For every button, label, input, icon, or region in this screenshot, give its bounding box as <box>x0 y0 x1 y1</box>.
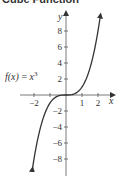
equals-sign: = <box>19 71 30 82</box>
function-label: f(x) = x3 <box>5 70 37 82</box>
svg-text:8: 8 <box>58 26 63 36</box>
svg-text:−2: −2 <box>29 98 39 108</box>
function-exponent: 3 <box>34 70 38 78</box>
svg-text:−6: −6 <box>52 138 62 148</box>
function-name: f(x) <box>5 71 19 82</box>
svg-text:2: 2 <box>96 98 101 108</box>
y-axis-label: y <box>57 11 63 22</box>
svg-text:6: 6 <box>58 42 63 52</box>
svg-text:2: 2 <box>58 74 63 84</box>
svg-text:−4: −4 <box>52 122 62 132</box>
svg-text:−2: −2 <box>52 106 62 116</box>
svg-text:1: 1 <box>80 98 85 108</box>
cube-function-plot: −212 8642−2−4−6−8 x y <box>0 0 124 179</box>
svg-text:4: 4 <box>58 58 63 68</box>
x-axis-label: x <box>108 95 114 106</box>
svg-text:−8: −8 <box>52 154 62 164</box>
